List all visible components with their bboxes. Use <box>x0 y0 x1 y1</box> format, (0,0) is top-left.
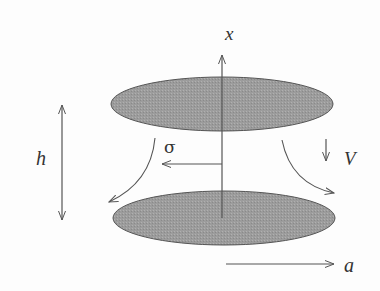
bottom-disk <box>113 191 335 245</box>
x-axis-label: x <box>224 23 234 44</box>
height-label: h <box>36 147 46 169</box>
velocity-label: V <box>344 148 358 169</box>
diagram-canvas: x h σ V a <box>0 0 380 291</box>
left-flow-streamline <box>109 138 155 202</box>
radius-label: a <box>344 254 354 276</box>
squeeze-flow-diagram: x h σ V a <box>0 0 380 291</box>
stress-label: σ <box>164 137 176 157</box>
